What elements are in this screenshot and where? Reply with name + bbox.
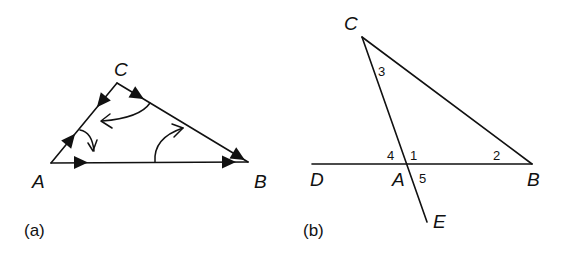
point-label-b: B (527, 169, 540, 190)
figure-b: C D A B E 1 2 3 4 5 (b) (303, 13, 540, 240)
point-label-c: C (344, 13, 358, 34)
angle-label-3: 3 (378, 64, 385, 79)
caption-a: (a) (24, 221, 45, 240)
point-label-a: A (391, 169, 405, 190)
figure-a: A B C (a) (24, 59, 267, 240)
side-ac (51, 83, 117, 163)
vertex-label-b: B (254, 171, 267, 192)
geometry-figure: A B C (a) C D A B E 1 2 3 4 5 (b) (0, 0, 568, 253)
point-label-d: D (310, 169, 324, 190)
vertex-label-c: C (114, 59, 128, 80)
angle-label-1: 1 (410, 148, 417, 163)
arrow-icon-cb-1 (129, 86, 148, 104)
arrow-icon-ac-up (61, 130, 80, 149)
side-cb (362, 37, 532, 164)
rotation-arc-c (102, 103, 150, 121)
point-label-e: E (433, 211, 446, 232)
line-ce (362, 37, 427, 222)
angle-label-2: 2 (493, 148, 500, 163)
angle-label-5: 5 (419, 171, 426, 186)
vertex-label-a: A (31, 171, 45, 192)
angle-label-4: 4 (387, 148, 394, 163)
arrow-icon-ab-1 (74, 156, 88, 169)
caption-b: (b) (303, 221, 324, 240)
